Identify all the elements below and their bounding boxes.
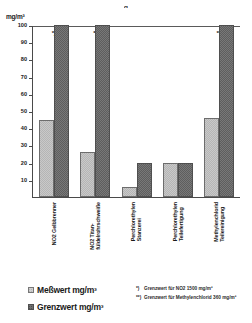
bar-group: *) [74,26,115,197]
bar-group [116,26,157,197]
footnote-text: Grenzwert für Methylenchlorid 360 mg/m³ [144,295,248,301]
bar-group: *) [33,26,74,197]
bar-messwert[interactable] [122,187,137,197]
x-axis-category-label: Perchlorethylen Teilefertigung [172,202,185,241]
footnote-marker: **) [136,295,144,301]
chart-footnotes: *)Grenzwert für NO2 1500 mg/m³**)Grenzwe… [136,286,248,303]
light-hatched-swatch [28,287,34,293]
bar-messwert[interactable] [39,120,54,197]
y-axis-tick [29,43,32,44]
legend-item[interactable]: Grenzwert mg/m³ [28,302,103,312]
bar-messwert[interactable] [163,163,178,197]
y-axis-tick [29,181,32,182]
y-axis-tick [29,146,32,147]
y-axis-tick-label: 80 [21,58,27,64]
y-axis-tick [29,129,32,130]
y-axis-tick-label: 10 [21,178,27,184]
clipped-title: g [0,0,252,8]
footnote-row: **)Grenzwert für Methylenchlorid 360 mg/… [136,295,248,301]
legend-item-label: Meßwert mg/m³ [37,285,97,295]
x-label-cell: Methylenchlorid Teilereinigung [199,202,240,278]
chart-plot-area: 100908070605040302010 *)*)**) [32,26,240,198]
bar-group [157,26,198,197]
footnote-text: Grenzwert für NO2 1500 mg/m³ [144,286,248,292]
bar-grenzwert[interactable] [219,25,234,197]
legend-item-label: Grenzwert mg/m³ [37,302,103,312]
bar-groups: *)*)**) [33,26,240,197]
bar-grenzwert[interactable] [137,163,152,197]
bar-grenzwert[interactable] [178,163,193,197]
y-axis-tick [29,26,32,27]
y-axis-tick-label: 20 [21,161,27,167]
y-axis-unit-label: mg/m³ [6,13,25,20]
x-axis-line [32,197,240,198]
bar-group: **) [199,26,240,197]
chart-legend: Meßwert mg/m³Grenzwert mg/m³ [28,285,103,319]
bar-grenzwert[interactable] [54,25,69,197]
x-label-cell: Perchlorethylen Stanzerei [116,202,157,278]
bar-grenzwert[interactable] [95,25,110,197]
footnote-marker: *) [136,286,144,292]
y-axis-tick [29,164,32,165]
y-axis-tick [29,112,32,113]
x-label-cell: Perchlorethylen Teilefertigung [157,202,198,278]
y-axis-tick-label: 30 [21,144,27,150]
y-axis-tick-label: 90 [21,40,27,46]
footnote-row: *)Grenzwert für NO2 1500 mg/m³ [136,286,248,292]
legend-item[interactable]: Meßwert mg/m³ [28,285,103,295]
bar-messwert[interactable] [80,152,95,197]
y-axis-tick-label: 60 [21,92,27,98]
x-axis-category-labels: NO2 GelbbrennerNO2 Titan- füldelrohrschw… [33,202,240,278]
x-axis-category-label: NO2 Gelbbrenner [51,202,57,245]
y-axis-tick [29,78,32,79]
y-axis-tick-label: 70 [21,75,27,81]
y-axis-tick-label: 50 [21,109,27,115]
x-label-cell: NO2 Titan- füldelrohrschweiße [74,202,115,278]
x-axis-category-label: NO2 Titan- füldelrohrschweiße [89,202,102,250]
y-axis-tick-label: 40 [21,126,27,132]
x-label-cell: NO2 Gelbbrenner [33,202,74,278]
x-axis-category-label: Perchlorethylen Stanzerei [130,202,143,241]
y-axis-tick-label: 100 [18,23,27,29]
y-axis-tick [29,95,32,96]
bar-messwert[interactable] [204,118,219,197]
dark-hatched-swatch [28,304,34,310]
y-axis-tick [29,60,32,61]
x-axis-category-label: Methylenchlorid Teilereinigung [213,202,226,242]
